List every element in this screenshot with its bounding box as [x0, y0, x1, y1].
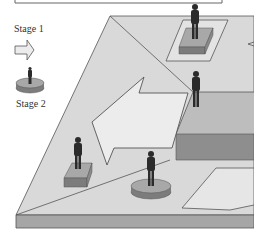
arrow-right-icon [15, 40, 34, 60]
top-frame [15, 0, 222, 3]
stage1-label: Stage 1 [14, 23, 44, 34]
round-pedestal-figure-icon [16, 67, 44, 93]
diagram-scene [0, 0, 254, 239]
round-pedestal [131, 179, 171, 199]
stage2-label: Stage 2 [16, 98, 46, 109]
